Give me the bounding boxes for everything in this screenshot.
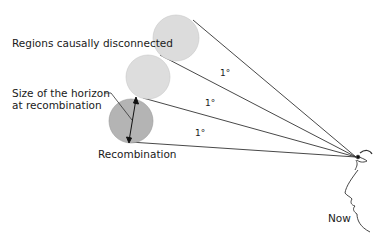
disconnected-region-middle (126, 55, 170, 99)
angle-label-bottom: 1° (195, 128, 205, 138)
disconnected-label: Regions causally disconnected (12, 37, 173, 49)
angle-label-top: 1° (220, 68, 230, 78)
angle-label-middle: 1° (205, 98, 215, 108)
horizon-label-line1: Size of the horizon (12, 87, 110, 99)
now-label: Now (328, 212, 351, 224)
recombination-label: Recombination (98, 148, 177, 160)
horizon-label-line2: at recombination (12, 99, 102, 111)
recombination-region (109, 99, 153, 143)
